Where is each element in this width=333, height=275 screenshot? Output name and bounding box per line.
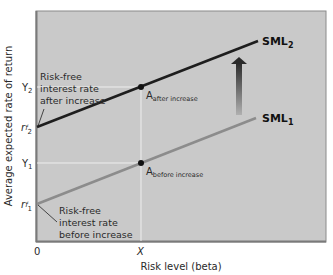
y-tick-y2: Y2: [21, 82, 33, 95]
x-tick-x: X: [136, 246, 145, 257]
svg-text:interest rate: interest rate: [59, 217, 118, 228]
point-a-before: [138, 160, 144, 166]
svg-text:Risk-free: Risk-free: [40, 71, 82, 82]
y-tick-rf1: rf1: [21, 199, 32, 213]
point-a-after: [138, 84, 144, 90]
svg-text:before increase: before increase: [59, 229, 133, 240]
svg-text:Risk-free: Risk-free: [59, 205, 101, 216]
sml-chart: SML2 SML1 Aafter increase Abefore increa…: [0, 0, 333, 275]
x-axis-title: Risk level (beta): [140, 261, 221, 272]
y-axis-title: Average expected rate of return: [3, 46, 14, 207]
svg-text:interest rate: interest rate: [40, 83, 99, 94]
x-tick-zero: 0: [34, 246, 40, 257]
y-tick-rf2: rf2: [21, 122, 32, 136]
svg-text:after increase: after increase: [40, 95, 106, 106]
y-tick-y1: Y1: [21, 158, 33, 171]
